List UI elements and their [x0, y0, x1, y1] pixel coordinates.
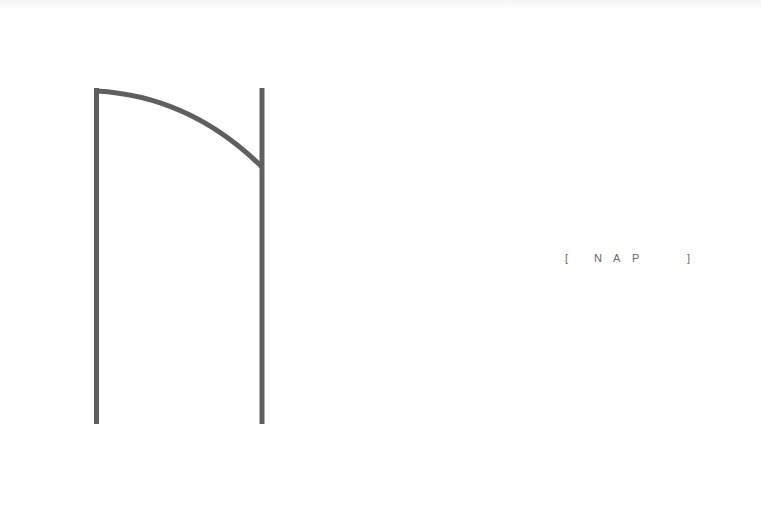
caption-close-bracket: ] — [687, 250, 690, 266]
caption-letter-p: P — [632, 250, 639, 266]
caption-open-bracket: [ — [565, 250, 568, 266]
caption-letter-a: A — [613, 250, 620, 266]
brand-caption: [ N A P ] — [563, 250, 575, 266]
page: [ N A P ] — [0, 0, 761, 525]
logo-mark-icon — [0, 0, 761, 525]
caption-letter-n: N — [594, 250, 602, 266]
logo-arc — [97, 91, 263, 167]
